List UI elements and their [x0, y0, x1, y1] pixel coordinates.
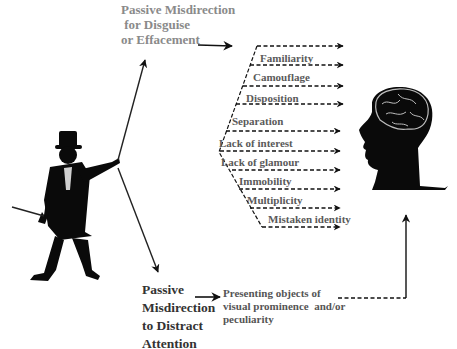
magician-silhouette-icon	[12, 131, 120, 281]
technique-lack-of-glamour: Lack of glamour	[221, 156, 299, 168]
head-brain-icon	[359, 87, 448, 190]
arrow-to-disguise	[118, 60, 145, 160]
technique-camouflage: Camouflage	[253, 71, 310, 83]
disguise-branch-title: Passive Misdirection for Disguise or Eff…	[121, 2, 235, 47]
technique-mistaken-identity: Mistaken identity	[268, 213, 351, 225]
technique-multiplicity: Multiplicity	[247, 194, 303, 206]
technique-lack-of-interest: Lack of interest	[219, 137, 293, 149]
distract-result-text: Presenting objects of visual prominence …	[223, 287, 345, 326]
arrow-to-distract	[118, 168, 158, 272]
technique-familiarity: Familiarity	[260, 52, 313, 64]
technique-immobility: Immobility	[239, 175, 292, 187]
technique-disposition: Disposition	[246, 92, 299, 104]
technique-separation: Separation	[232, 115, 283, 127]
distract-branch-title: Passive Misdirection to Distract Attenti…	[142, 281, 215, 349]
